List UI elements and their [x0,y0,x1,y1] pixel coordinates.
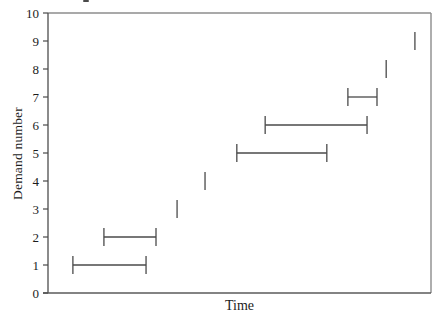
demand-interval-1 [73,256,146,274]
demand-time-chart: 012345678910 Demand number Time [0,0,441,320]
y-tick-label: 10 [26,6,39,21]
y-tick-label: 7 [33,90,40,105]
demand-interval-7 [348,88,377,106]
y-tick-label: 9 [33,34,40,49]
y-tick-label: 3 [33,202,40,217]
y-tick-label: 0 [33,286,40,301]
chart-plot-area: 012345678910 [0,0,441,320]
y-tick-label: 4 [33,174,40,189]
x-axis-title: Time [48,298,431,314]
demand-interval-6 [265,116,367,134]
y-tick-label: 8 [33,62,40,77]
y-tick-label: 2 [33,230,40,245]
y-tick-label: 1 [33,258,40,273]
y-tick-label: 5 [33,146,40,161]
demand-interval-2 [104,228,156,246]
y-axis-title: Demand number [10,94,25,214]
demand-interval-5 [237,144,327,162]
y-tick-label: 6 [33,118,40,133]
